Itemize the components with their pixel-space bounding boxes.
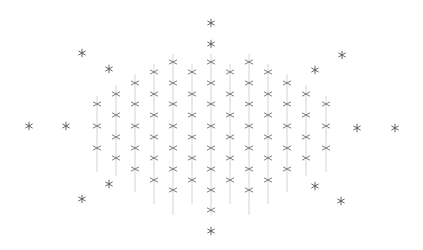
scatter-plot <box>0 0 423 250</box>
